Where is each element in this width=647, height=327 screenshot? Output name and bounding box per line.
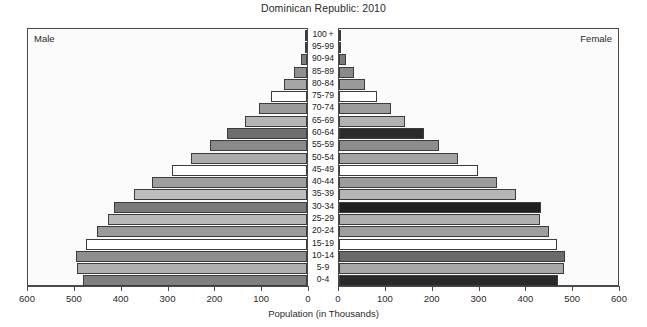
male-bar-75-79 <box>271 91 307 102</box>
x-tick <box>168 286 169 291</box>
x-tick <box>74 286 75 291</box>
male-bar-50-54 <box>191 153 307 164</box>
female-bar-15-19 <box>339 239 557 250</box>
age-label-40-44: 40-44 <box>308 176 338 187</box>
x-tick <box>479 286 480 291</box>
age-label-70-74: 70-74 <box>308 102 338 113</box>
male-bars-group <box>28 29 307 285</box>
x-tick <box>121 286 122 291</box>
female-bar-70-74 <box>339 103 391 114</box>
age-label-50-54: 50-54 <box>308 152 338 163</box>
x-tick-label: 0 <box>335 293 340 304</box>
female-bar-50-54 <box>339 153 458 164</box>
age-label-10-14: 10-14 <box>308 250 338 261</box>
female-bar-100plus <box>339 30 341 41</box>
x-tick-label: 500 <box>564 293 580 304</box>
male-bar-70-74 <box>259 103 307 114</box>
female-bar-65-69 <box>339 116 405 127</box>
x-tick-label: 300 <box>471 293 487 304</box>
age-label-30-34: 30-34 <box>308 201 338 212</box>
female-bar-10-14 <box>339 251 565 262</box>
female-bar-85-89 <box>339 67 354 78</box>
age-label-45-49: 45-49 <box>308 164 338 175</box>
age-label-95-99: 95-99 <box>308 41 338 52</box>
x-tick <box>572 286 573 291</box>
male-bar-90-94 <box>301 54 307 65</box>
age-group-axis: 0-45-910-1415-1920-2425-2930-3435-3940-4… <box>308 28 338 286</box>
x-tick-label: 600 <box>611 293 627 304</box>
x-axis-title: Population (in Thousands) <box>0 308 647 319</box>
female-bar-30-34 <box>339 202 541 213</box>
chart-title: Dominican Republic: 2010 <box>0 2 647 14</box>
male-bar-100plus <box>305 30 307 41</box>
age-label-85-89: 85-89 <box>308 66 338 77</box>
male-bar-25-29 <box>108 214 307 225</box>
male-bar-45-49 <box>172 165 307 176</box>
female-bars-group <box>339 29 618 285</box>
age-label-100plus: 100 + <box>308 29 338 40</box>
male-bar-85-89 <box>294 67 307 78</box>
male-bar-60-64 <box>227 128 307 139</box>
x-tick-label: 500 <box>66 293 82 304</box>
male-bar-30-34 <box>114 202 307 213</box>
x-tick-label: 0 <box>305 293 310 304</box>
female-bar-55-59 <box>339 140 439 151</box>
female-bar-20-24 <box>339 226 549 237</box>
age-label-75-79: 75-79 <box>308 90 338 101</box>
age-label-20-24: 20-24 <box>308 225 338 236</box>
male-bar-15-19 <box>86 239 307 250</box>
age-label-90-94: 90-94 <box>308 53 338 64</box>
female-bar-60-64 <box>339 128 424 139</box>
x-tick <box>27 286 28 291</box>
female-bar-75-79 <box>339 91 377 102</box>
age-label-35-39: 35-39 <box>308 188 338 199</box>
x-tick-label: 600 <box>19 293 35 304</box>
female-bar-40-44 <box>339 177 497 188</box>
x-tick <box>214 286 215 291</box>
male-bar-0-4 <box>83 275 307 286</box>
female-bar-95-99 <box>339 42 341 53</box>
female-bar-80-84 <box>339 79 365 90</box>
x-tick-label: 100 <box>377 293 393 304</box>
x-tick-label: 200 <box>424 293 440 304</box>
x-tick-label: 300 <box>160 293 176 304</box>
male-bar-80-84 <box>284 79 307 90</box>
female-bar-25-29 <box>339 214 540 225</box>
female-bar-45-49 <box>339 165 478 176</box>
x-tick-label: 200 <box>206 293 222 304</box>
x-tick <box>261 286 262 291</box>
male-bar-40-44 <box>152 177 307 188</box>
x-tick-label: 400 <box>517 293 533 304</box>
population-pyramid-chart: Dominican Republic: 2010 Male Female 0-4… <box>0 0 647 327</box>
male-bar-20-24 <box>97 226 307 237</box>
x-tick-label: 400 <box>113 293 129 304</box>
male-bar-55-59 <box>210 140 307 151</box>
male-bar-95-99 <box>305 42 307 53</box>
age-label-15-19: 15-19 <box>308 238 338 249</box>
age-label-0-4: 0-4 <box>308 274 338 285</box>
age-label-25-29: 25-29 <box>308 213 338 224</box>
male-bar-10-14 <box>76 251 307 262</box>
male-bar-35-39 <box>134 189 307 200</box>
x-tick <box>432 286 433 291</box>
x-tick <box>338 286 339 291</box>
female-bar-35-39 <box>339 189 516 200</box>
x-tick <box>308 286 309 291</box>
female-bar-5-9 <box>339 263 564 274</box>
male-bar-5-9 <box>77 263 307 274</box>
age-label-55-59: 55-59 <box>308 139 338 150</box>
age-label-80-84: 80-84 <box>308 78 338 89</box>
x-tick-label: 100 <box>253 293 269 304</box>
age-label-5-9: 5-9 <box>308 262 338 273</box>
x-tick <box>525 286 526 291</box>
x-tick <box>619 286 620 291</box>
male-plot-panel: Male <box>27 28 308 286</box>
age-label-60-64: 60-64 <box>308 127 338 138</box>
female-plot-panel: Female <box>338 28 619 286</box>
x-tick <box>385 286 386 291</box>
age-label-65-69: 65-69 <box>308 115 338 126</box>
male-bar-65-69 <box>245 116 307 127</box>
female-bar-90-94 <box>339 54 346 65</box>
female-bar-0-4 <box>339 275 558 286</box>
